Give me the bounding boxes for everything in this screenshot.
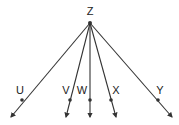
point-y — [156, 98, 160, 102]
point-label-y: Y — [156, 84, 164, 96]
point-x — [109, 98, 113, 102]
point-u — [20, 98, 24, 102]
point-label-u: U — [16, 84, 24, 96]
point-label-v: V — [62, 84, 70, 96]
diagram-canvas: UVWXY Z — [0, 0, 179, 125]
vertex-point — [88, 21, 92, 25]
vertex-label: Z — [87, 5, 94, 17]
rays-diagram: UVWXY Z — [0, 0, 179, 125]
point-v — [68, 98, 72, 102]
ray-zy — [90, 23, 172, 117]
rays-group: UVWXY — [11, 23, 172, 117]
point-label-w: W — [77, 84, 88, 96]
point-label-x: X — [112, 84, 120, 96]
vertex-group: Z — [87, 5, 94, 25]
point-w — [88, 98, 92, 102]
